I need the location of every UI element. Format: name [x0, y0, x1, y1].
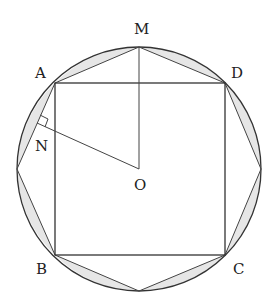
label-m: M [134, 20, 149, 38]
label-o: O [134, 176, 146, 194]
label-d: D [231, 64, 243, 82]
segment-on [37, 123, 139, 169]
square-abcd [55, 83, 225, 255]
label-c: C [233, 260, 244, 278]
label-b: B [36, 260, 47, 278]
geometry-diagram: M A D N O B C [0, 0, 279, 300]
label-a: A [34, 64, 46, 82]
label-n: N [35, 137, 48, 155]
